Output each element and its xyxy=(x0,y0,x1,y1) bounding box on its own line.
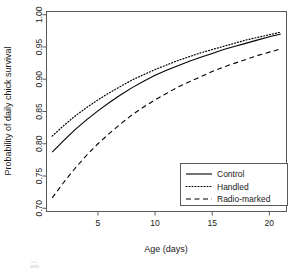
y-tick-label: 0.70 xyxy=(34,200,44,217)
legend-label-control: Control xyxy=(217,169,245,179)
x-tick-label: 15 xyxy=(207,218,217,228)
x-tick-label: 10 xyxy=(150,218,160,228)
chart-figure: 0.700.750.800.850.900.951.00 5101520 Age… xyxy=(0,0,301,273)
survival-probability-line-chart: 0.700.750.800.850.900.951.00 5101520 Age… xyxy=(0,0,301,273)
legend-label-radio-marked: Radio-marked xyxy=(217,194,271,204)
y-tick-label: 0.80 xyxy=(34,135,44,152)
x-axis-title: Age (days) xyxy=(144,244,188,254)
legend-label-handled: Handled xyxy=(217,182,249,192)
x-tick-label: 20 xyxy=(265,218,275,228)
y-tick-label: 0.95 xyxy=(34,38,44,55)
y-tick-label: 0.75 xyxy=(34,167,44,184)
y-tick-label: 0.85 xyxy=(34,103,44,120)
y-tick-label: 0.90 xyxy=(34,71,44,88)
x-tick-label: 5 xyxy=(96,218,101,228)
y-tick-label: 1.00 xyxy=(34,6,44,23)
y-axis-title: Probability of daily chick survival xyxy=(3,46,13,175)
chart-legend: ControlHandledRadio-marked xyxy=(181,164,288,206)
